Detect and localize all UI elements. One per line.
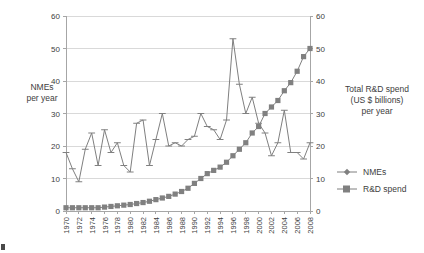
data-point-rd-spend <box>205 171 210 176</box>
data-point-rd-spend <box>288 80 293 85</box>
data-point-rd-spend <box>160 195 165 200</box>
data-point-rd-spend <box>307 46 312 51</box>
data-point-rd-spend <box>211 168 216 173</box>
corner-artifact <box>1 244 5 250</box>
left-tick-label: 30 <box>51 110 60 119</box>
data-point-rd-spend <box>275 98 280 103</box>
data-point-rd-spend <box>115 203 120 208</box>
legend-label-nmes: NMEs <box>363 167 386 177</box>
right-axis-title: Total R&D spend (US $ billions) per year <box>345 84 409 116</box>
left-axis-title: NMEs per year <box>26 82 57 103</box>
data-point-rd-spend <box>140 200 145 205</box>
data-point-rd-spend <box>243 140 248 145</box>
left-axis-title-line-2: per year <box>26 93 57 103</box>
data-point-rd-spend <box>63 205 68 210</box>
data-point-rd-spend <box>153 197 158 202</box>
x-tick-label: 1984 <box>152 217 161 234</box>
x-tick-label: 1992 <box>203 217 212 234</box>
x-tick-label: 1972 <box>75 217 84 234</box>
data-point-rd-spend <box>128 202 133 207</box>
left-tick-label: 50 <box>51 45 60 54</box>
left-tick-label: 0 <box>56 207 61 216</box>
right-tick-label: 20 <box>316 142 325 151</box>
data-point-rd-spend <box>185 186 190 191</box>
data-point-rd-spend <box>166 194 171 199</box>
data-point-rd-spend <box>237 147 242 152</box>
chart-legend: NMEs R&D spend <box>337 167 407 194</box>
x-tick-label: 1986 <box>165 217 174 234</box>
data-point-rd-spend <box>269 104 274 109</box>
series-line-nmes <box>66 39 310 182</box>
data-point-rd-spend <box>173 192 178 197</box>
data-point-rd-spend <box>179 189 184 194</box>
right-tick-label: 60 <box>316 12 325 21</box>
x-tick-label: 2002 <box>267 217 276 234</box>
legend-item-rd-spend[interactable]: R&D spend <box>337 184 407 194</box>
data-point-rd-spend <box>295 69 300 74</box>
data-point-rd-spend <box>192 181 197 186</box>
data-point-rd-spend <box>224 160 229 165</box>
data-point-rd-spend <box>218 165 223 170</box>
right-tick-label: 10 <box>316 175 325 184</box>
x-tick-label: 1988 <box>178 217 187 234</box>
right-axis-tick-labels: 0102030405060 <box>316 12 325 216</box>
data-point-rd-spend <box>230 153 235 158</box>
series-nmes <box>63 0 314 182</box>
data-point-rd-spend <box>301 54 306 59</box>
data-point-rd-spend <box>83 205 88 210</box>
data-point-rd-spend <box>134 201 139 206</box>
right-tick-label: 40 <box>316 77 325 86</box>
right-tick-label: 30 <box>316 110 325 119</box>
data-point-rd-spend <box>108 204 113 209</box>
x-tick-label: 2006 <box>293 217 302 234</box>
square-marker-icon <box>343 186 350 193</box>
data-point-rd-spend <box>147 199 152 204</box>
nmes-vs-rd-spend-chart: 0102030405060 0102030405060 197019721974… <box>0 0 424 253</box>
left-axis-tick-labels: 0102030405060 <box>51 12 60 216</box>
x-tick-label: 1990 <box>190 217 199 234</box>
x-tick-label: 1994 <box>216 217 225 234</box>
x-tick-label: 2008 <box>306 217 315 234</box>
legend-label-rd-spend: R&D spend <box>363 184 407 194</box>
data-point-rd-spend <box>121 203 126 208</box>
series-line-rd-spend <box>66 49 310 208</box>
gridlines <box>66 16 310 179</box>
x-tick-label: 1998 <box>242 217 251 234</box>
x-tick-label: 1970 <box>62 217 71 234</box>
chart-figure: 0102030405060 0102030405060 197019721974… <box>0 0 424 253</box>
x-tick-label: 1980 <box>126 217 135 234</box>
series-rd-spend <box>63 46 312 210</box>
right-axis-title-line-1: Total R&D spend <box>345 84 409 94</box>
left-axis-title-line-1: NMEs <box>30 82 53 92</box>
data-point-rd-spend <box>250 130 255 135</box>
right-axis-title-line-2: (US $ billions) <box>351 95 404 105</box>
data-point-rd-spend <box>282 88 287 93</box>
right-axis-title-line-3: per year <box>361 106 392 116</box>
x-tick-label: 2004 <box>280 217 289 234</box>
data-point-rd-spend <box>262 111 267 116</box>
right-tick-label: 50 <box>316 45 325 54</box>
legend-item-nmes[interactable]: NMEs <box>337 167 386 177</box>
x-tick-label: 2000 <box>255 217 264 234</box>
data-point-rd-spend <box>102 205 107 210</box>
data-point-rd-spend <box>96 205 101 210</box>
left-tick-label: 60 <box>51 12 60 21</box>
x-tick-label: 1974 <box>88 217 97 234</box>
x-tick-label: 1996 <box>229 217 238 234</box>
right-tick-label: 0 <box>316 207 321 216</box>
diamond-marker-icon <box>344 169 350 175</box>
data-point-rd-spend <box>76 205 81 210</box>
left-tick-label: 10 <box>51 175 60 184</box>
x-tick-label: 1982 <box>139 217 148 234</box>
data-point-rd-spend <box>198 176 203 181</box>
x-tick-label: 1976 <box>101 217 110 234</box>
x-axis-tick-labels: 1970197219741976197819801982198419861988… <box>62 211 315 234</box>
data-point-rd-spend <box>89 205 94 210</box>
data-point-rd-spend <box>70 205 75 210</box>
x-tick-label: 1978 <box>113 217 122 234</box>
left-tick-label: 20 <box>51 142 60 151</box>
